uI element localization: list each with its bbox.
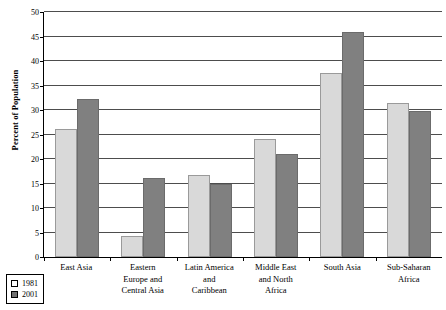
category-label: East Asia xyxy=(43,262,110,297)
category-label-line: Eastern xyxy=(111,262,176,274)
y-axis-tick-label: 25 xyxy=(31,130,39,139)
y-axis-tick-label: 20 xyxy=(31,155,39,164)
legend: 1981 2001 xyxy=(6,274,44,304)
bar-group xyxy=(243,12,309,257)
category-label-line: Caribbean xyxy=(177,285,242,297)
bar-2001 xyxy=(342,32,364,257)
y-axis-tick-label: 45 xyxy=(31,32,39,41)
legend-swatch-icon-1981 xyxy=(11,280,18,287)
bar-2001 xyxy=(143,178,165,257)
y-axis-tick-label: 35 xyxy=(31,81,39,90)
bar-chart: Percent of Population 051015202530354045… xyxy=(0,0,446,310)
category-label: Latin AmericaandCaribbean xyxy=(176,262,243,297)
y-axis-tick-label: 15 xyxy=(31,179,39,188)
bar-groups xyxy=(44,12,442,257)
y-axis-tick-label: 40 xyxy=(31,57,39,66)
bar-1981 xyxy=(121,236,143,257)
bar-1981 xyxy=(254,139,276,257)
plot-area: 05101520253035404550 xyxy=(43,12,442,258)
bar-1981 xyxy=(320,73,342,257)
y-axis-tick-label: 0 xyxy=(35,253,39,262)
bar-group xyxy=(376,12,442,257)
bar-2001 xyxy=(77,99,99,257)
y-axis-tick-label: 10 xyxy=(31,204,39,213)
x-axis-tick-mark xyxy=(243,257,244,261)
legend-item-1981: 1981 xyxy=(11,278,38,289)
x-axis-tick-mark xyxy=(376,257,377,261)
bar-group xyxy=(44,12,110,257)
bar-group xyxy=(309,12,375,257)
y-axis-tick-label: 30 xyxy=(31,106,39,115)
bar-group xyxy=(110,12,176,257)
category-label: South Asia xyxy=(309,262,376,297)
y-axis-tick-label: 50 xyxy=(31,8,39,17)
x-axis-tick-mark xyxy=(177,257,178,261)
category-label: Sub-SaharanAfrica xyxy=(376,262,443,297)
legend-item-2001: 2001 xyxy=(11,289,38,300)
category-label-line: Latin America xyxy=(177,262,242,274)
bar-group xyxy=(177,12,243,257)
legend-label-2001: 2001 xyxy=(22,289,38,300)
category-axis-labels: East AsiaEasternEurope andCentral AsiaLa… xyxy=(43,262,442,297)
bar-2001 xyxy=(210,184,232,258)
category-label-line: Europe and xyxy=(111,274,176,286)
category-label-line: and North xyxy=(244,274,309,286)
category-label-line: Central Asia xyxy=(111,285,176,297)
bar-1981 xyxy=(55,129,77,257)
legend-label-1981: 1981 xyxy=(22,278,38,289)
category-label-line: Africa xyxy=(244,285,309,297)
bar-1981 xyxy=(188,175,210,257)
category-label-line: and xyxy=(177,274,242,286)
legend-swatch-icon-2001 xyxy=(11,291,18,298)
category-label-line: South Asia xyxy=(310,262,375,274)
y-axis-title: Percent of Population xyxy=(10,50,20,170)
category-label-line: Sub-Saharan xyxy=(377,262,442,274)
x-axis-tick-mark xyxy=(309,257,310,261)
bar-2001 xyxy=(409,111,431,257)
x-axis-tick-mark xyxy=(44,257,45,261)
category-label: Middle Eastand NorthAfrica xyxy=(243,262,310,297)
category-label: EasternEurope andCentral Asia xyxy=(110,262,177,297)
x-axis-tick-mark xyxy=(110,257,111,261)
category-label-line: Africa xyxy=(377,274,442,286)
category-label-line: East Asia xyxy=(44,262,109,274)
bar-2001 xyxy=(276,154,298,257)
y-axis-tick-label: 5 xyxy=(35,228,39,237)
category-label-line: Middle East xyxy=(244,262,309,274)
bar-1981 xyxy=(387,103,409,257)
